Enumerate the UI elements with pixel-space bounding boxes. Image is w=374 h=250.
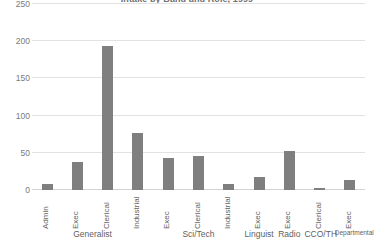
bar [314,188,325,191]
bar [102,46,113,190]
y-tick-label-250: 250 [4,0,30,9]
bar [132,133,143,190]
bar [344,180,355,190]
category-axis-labels: AdminExecClericalIndustrialExecClericalI… [32,191,365,229]
bar [163,158,174,190]
bar [72,162,83,190]
group-label: Radio [274,229,304,239]
y-tick-label-200: 200 [4,36,30,46]
bar [284,151,295,190]
bar [42,184,53,190]
y-axis-tick-labels: 050100150200250 [0,4,30,190]
y-tick-label-150: 150 [4,73,30,83]
bar [193,156,204,190]
bar-chart: Intake by Band and Role, 1999 0501001502… [0,0,374,250]
y-tick-label-50: 50 [4,148,30,158]
category-label: Clerical [103,202,111,229]
bars-layer [32,4,365,190]
category-label: Exec [163,211,171,229]
category-label: Exec [254,211,262,229]
group-axis-labels: GeneralistSci/TechLinguistRadioCCO/THDep… [32,229,365,245]
category-label: Exec [72,211,80,229]
group-label: Linguist [244,229,274,239]
category-label: Exec [345,211,353,229]
bar [254,177,265,190]
y-tick-label-0: 0 [4,185,30,195]
category-label: Industrial [224,197,232,229]
category-label: Industrial [133,197,141,229]
category-label: Exec [284,211,292,229]
group-label: Sci/Tech [153,229,244,239]
bar [223,184,234,190]
group-label: CCO/TH [304,229,334,239]
category-label: Admin [42,206,50,229]
category-label: Clerical [315,202,323,229]
category-label: Clerical [194,202,202,229]
group-label: Generalist [32,229,153,239]
group-label: Departmental [335,229,365,236]
y-tick-label-100: 100 [4,111,30,121]
